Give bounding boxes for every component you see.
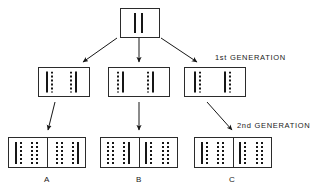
chromatid-bar-dashed: [217, 142, 219, 164]
arrow-parent-to-gen1-right: [161, 38, 197, 62]
chromatid-bar-dashed: [147, 72, 149, 93]
chromatid-bar-solid: [239, 142, 241, 164]
chromatid-bar-dashed: [36, 142, 38, 164]
arrow-gen1-left-to-a: [48, 102, 55, 130]
parent-bar-group: [134, 13, 143, 33]
chromatid-bar-solid: [224, 72, 226, 93]
chromosome-pair: [46, 72, 53, 93]
chromatid-bar-dashed: [123, 142, 125, 164]
chromatid-bar-dashed: [244, 142, 246, 164]
chromatid-bar-solid: [128, 142, 130, 164]
chromatid-bar-dashed: [72, 142, 74, 164]
chromatid-bar-dashed: [256, 142, 258, 164]
chromatid-bar-dashed: [51, 72, 53, 93]
chromatid-bar-solid: [15, 142, 17, 164]
chromosome-pair: [31, 142, 38, 164]
chromatid-bar-dashed: [31, 142, 33, 164]
chromatid-bar-dashed: [56, 142, 58, 164]
generation-1-label: 1st GENERATION: [215, 53, 286, 62]
chromatid-bar-solid: [201, 142, 203, 164]
chromatid-bar-dashed: [206, 142, 208, 164]
chromosome-pair: [217, 142, 224, 164]
chromatid-bar-dashed: [261, 142, 263, 164]
chromatid-bar-solid: [46, 72, 48, 93]
chromosome-pair: [117, 72, 124, 93]
chromatid-bar-dashed: [20, 142, 22, 164]
chromatid-bar-dashed: [199, 72, 201, 93]
gen1-box-right: [184, 67, 246, 97]
chromatid-bar-solid: [122, 72, 124, 93]
generation-2-label: 2nd GENERATION: [237, 121, 310, 130]
chromatid-bar-solid: [152, 72, 154, 93]
chromosome-pair: [56, 142, 63, 164]
chromosome-pair: [194, 72, 201, 93]
chromosome-pair: [224, 72, 231, 93]
gen2-label-a: A: [44, 175, 50, 184]
chromosome-pair: [15, 142, 22, 164]
arrow-parent-to-gen1-left: [83, 38, 117, 62]
chromatid-bar-solid: [75, 72, 77, 93]
chromatid-bar-dashed: [150, 142, 152, 164]
chromosome-pair: [145, 142, 152, 164]
gen1-box-middle: [108, 67, 170, 97]
gen2-label-c: C: [229, 175, 235, 184]
chromatid-bar-dashed: [70, 72, 72, 93]
chromosome-pair: [239, 142, 246, 164]
daughter-cell: [101, 138, 140, 167]
figure-canvas: 1st GENERATION 2nd GENERATION A B C: [0, 0, 323, 192]
daughter-cell: [234, 138, 273, 167]
gen2-box-a: [8, 137, 86, 168]
gen2-box-b: [100, 137, 178, 168]
chromatid-bar-solid: [77, 142, 79, 164]
chromosome-pair: [162, 142, 169, 164]
chromatid-bar-dashed: [107, 142, 109, 164]
parent-box: [120, 8, 160, 38]
chromatid-bar-dashed: [112, 142, 114, 164]
chromosome-pair: [201, 142, 208, 164]
daughter-cell: [9, 138, 48, 167]
gen2-label-b: B: [136, 175, 142, 184]
daughter-cell: [195, 138, 234, 167]
chromosome-pair: [107, 142, 114, 164]
daughter-cell: [140, 138, 179, 167]
gen1-box-left: [38, 67, 90, 97]
chromatid-bar-solid: [145, 142, 147, 164]
chromatid-bar-dashed: [117, 72, 119, 93]
chromatid-bar-solid: [141, 13, 143, 33]
chromatid-bar-dashed: [61, 142, 63, 164]
arrow-gen1-right-to-c: [207, 102, 232, 130]
chromosome-pair: [123, 142, 130, 164]
chromatid-bar-solid: [194, 72, 196, 93]
gen2-box-c: [194, 137, 272, 168]
chromosome-pair: [256, 142, 263, 164]
chromatid-bar-dashed: [229, 72, 231, 93]
chromatid-bar-dashed: [162, 142, 164, 164]
chromosome-pair: [70, 72, 77, 93]
chromatid-bar-dashed: [222, 142, 224, 164]
chromatid-bar-dashed: [167, 142, 169, 164]
chromosome-pair: [72, 142, 79, 164]
daughter-cell: [48, 138, 87, 167]
chromatid-bar-solid: [134, 13, 136, 33]
chromosome-pair: [147, 72, 154, 93]
